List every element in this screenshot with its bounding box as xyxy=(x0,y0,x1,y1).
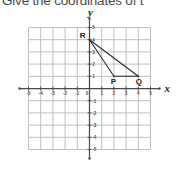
x-axis-label: x xyxy=(164,82,171,94)
vertex-r xyxy=(89,39,91,41)
x-tick-label: 5 xyxy=(149,91,152,96)
x-tick-label: -1 xyxy=(75,91,80,96)
y-tick-label: 3 xyxy=(92,50,95,55)
x-tick-label: -2 xyxy=(63,91,68,96)
y-tick-label: -4 xyxy=(92,135,97,140)
y-tick-label: 5 xyxy=(92,25,95,30)
point-label-r: R xyxy=(80,31,86,40)
y-axis-arrow xyxy=(88,17,90,19)
y-tick-label: -2 xyxy=(92,111,97,116)
x-tick-label: -3 xyxy=(51,91,56,96)
worksheet-figure: Give the coordinates of t -5-4-3-2-10123… xyxy=(0,0,180,177)
y-axis-arrow xyxy=(88,157,90,159)
y-tick-label: -1 xyxy=(92,99,97,104)
coordinate-plane: -5-4-3-2-1012345-5-4-3-2-112345 PQR xy xyxy=(0,8,180,177)
axis-letters: xy xyxy=(86,8,170,94)
x-tick-label: 4 xyxy=(137,91,140,96)
x-tick-label: -4 xyxy=(39,91,44,96)
y-tick-label: -3 xyxy=(92,123,97,128)
y-tick-label: 1 xyxy=(92,74,95,79)
x-tick-label: 2 xyxy=(113,91,116,96)
graph-svg: -5-4-3-2-1012345-5-4-3-2-112345 PQR xy xyxy=(0,8,180,177)
x-tick-label: 3 xyxy=(125,91,128,96)
x-tick-label: -5 xyxy=(26,91,31,96)
y-tick-label: 2 xyxy=(92,62,95,67)
axes xyxy=(18,17,160,159)
x-tick-label: 1 xyxy=(100,91,103,96)
y-tick-label: -5 xyxy=(92,147,97,152)
x-axis-arrow xyxy=(18,87,20,89)
x-axis-arrow xyxy=(158,87,160,89)
point-label-q: Q xyxy=(136,77,142,86)
x-tick-label: 0 xyxy=(86,91,89,96)
y-axis-label: y xyxy=(86,8,93,18)
point-label-p: P xyxy=(111,77,117,86)
